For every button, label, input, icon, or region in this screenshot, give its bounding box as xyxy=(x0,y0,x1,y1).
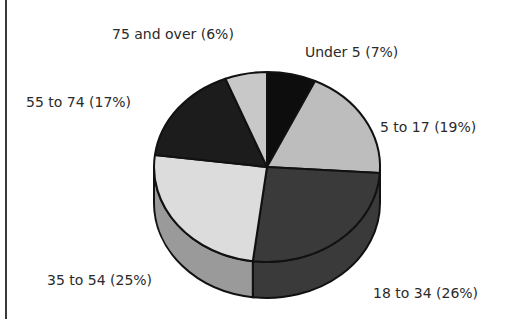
label-75-and-over: 75 and over (6%) xyxy=(112,26,234,42)
label-5-to-17: 5 to 17 (19%) xyxy=(380,119,476,135)
label-55-to-74: 55 to 74 (17%) xyxy=(26,94,131,110)
label-35-to-54: 35 to 54 (25%) xyxy=(47,272,152,288)
label-under-5: Under 5 (7%) xyxy=(305,44,398,60)
label-18-to-34: 18 to 34 (26%) xyxy=(373,285,478,301)
pie-top-face xyxy=(154,72,380,262)
